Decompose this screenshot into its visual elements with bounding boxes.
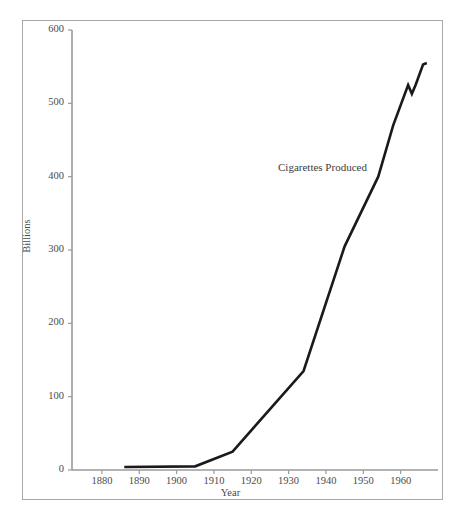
x-axis-tick-label: 1900: [157, 475, 197, 486]
chart-plot-area: [0, 0, 461, 528]
data-series-line: [124, 63, 427, 467]
series-annotation-label: Cigarettes Produced: [278, 161, 367, 173]
x-axis-tick-label: 1920: [231, 475, 271, 486]
x-axis-tick-label: 1880: [82, 475, 122, 486]
x-axis-tick-label: 1930: [269, 475, 309, 486]
x-axis-tick-label: 1940: [306, 475, 346, 486]
x-axis-tick-label: 1950: [343, 475, 383, 486]
y-axis-tick-label: 200: [0, 316, 64, 327]
y-axis-tick-label: 500: [0, 96, 64, 107]
figure-container: Billions Year Cigarettes Produced 010020…: [0, 0, 461, 528]
x-axis-tick-label: 1890: [119, 475, 159, 486]
y-axis-tick-label: 400: [0, 170, 64, 181]
y-axis-tick-label: 600: [0, 23, 64, 34]
x-axis-tick-label: 1960: [381, 475, 421, 486]
y-axis-tick-label: 100: [0, 390, 64, 401]
y-axis-tick-label: 0: [0, 463, 64, 474]
x-axis-tick-label: 1910: [194, 475, 234, 486]
x-axis-title: Year: [0, 487, 461, 498]
y-axis-tick-label: 300: [0, 243, 64, 254]
